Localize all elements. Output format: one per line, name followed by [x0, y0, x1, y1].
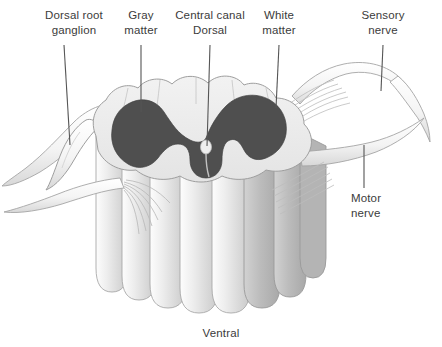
label-central-canal-dorsal: Central canal Dorsal [166, 8, 254, 37]
label-motor-nerve: Motor nerve [351, 191, 407, 220]
cord-cross-section [93, 76, 311, 182]
label-gray-matter: Gray matter [113, 8, 169, 37]
central-canal [201, 140, 212, 154]
spinal-cord-diagram: Dorsal root ganglion Gray matter Central… [0, 0, 442, 347]
label-sensory-nerve: Sensory nerve [352, 8, 414, 37]
spinal-cord-illustration [0, 0, 442, 347]
label-ventral: Ventral [190, 326, 252, 341]
label-dorsal-root-ganglion: Dorsal root ganglion [28, 8, 120, 37]
label-white-matter: White matter [251, 8, 307, 37]
